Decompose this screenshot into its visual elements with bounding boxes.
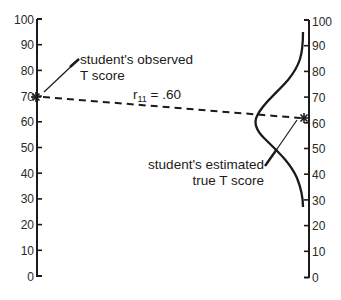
estimated-label-line1: student's estimated — [148, 157, 264, 172]
observed-score-asterisk-icon — [31, 92, 41, 102]
left-tick-50: 50 — [21, 141, 35, 155]
right-tick-20: 20 — [312, 219, 326, 233]
right-tick-30: 30 — [312, 194, 326, 208]
right-tick-0: 0 — [312, 271, 319, 285]
estimated-leader-line — [277, 120, 297, 149]
left-tick-30: 30 — [21, 192, 35, 206]
left-tick-90: 90 — [21, 38, 35, 52]
estimated-score-asterisk-icon — [299, 113, 309, 123]
observed-label-line1: student's observed — [80, 52, 193, 67]
right-tick-40: 40 — [312, 168, 326, 182]
left-tick-10: 10 — [21, 244, 35, 258]
right-axis — [304, 20, 309, 278]
right-tick-60: 60 — [312, 117, 326, 131]
estimated-leader-line-thick — [265, 149, 277, 166]
left-tick-60: 60 — [21, 115, 35, 129]
reliability-label: r11 = .60 — [133, 87, 181, 104]
true-score-diagram: 100 90 80 70 60 50 40 30 20 10 0 100 90 … — [0, 0, 341, 300]
reliability-value: = .60 — [147, 87, 181, 102]
left-tick-100: 100 — [14, 13, 34, 27]
left-tick-40: 40 — [21, 167, 35, 181]
right-axis-labels: 100 90 80 70 60 50 40 30 20 10 0 — [312, 15, 332, 285]
right-tick-10: 10 — [312, 245, 326, 259]
right-tick-80: 80 — [312, 65, 326, 79]
right-tick-70: 70 — [312, 91, 326, 105]
left-tick-80: 80 — [21, 64, 35, 78]
right-tick-50: 50 — [312, 142, 326, 156]
left-tick-0: 0 — [27, 270, 34, 284]
left-axis — [37, 19, 42, 277]
estimated-label-line2: true T score — [192, 173, 264, 188]
left-axis-labels: 100 90 80 70 60 50 40 30 20 10 0 — [14, 13, 34, 284]
right-tick-90: 90 — [312, 39, 326, 53]
right-tick-100: 100 — [312, 15, 332, 29]
observed-leader-line-thick — [70, 59, 79, 67]
reliability-subscript: 11 — [138, 94, 147, 104]
left-tick-20: 20 — [21, 218, 35, 232]
observed-label-line2: T score — [80, 68, 125, 83]
